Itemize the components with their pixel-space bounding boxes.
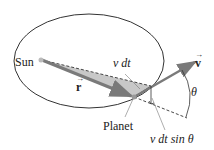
vdt-label: v dt: [113, 57, 131, 69]
theta-arc: [182, 70, 190, 117]
theta-label: θ: [191, 86, 197, 98]
v-vector-arrow: [134, 62, 195, 97]
planet-dot: [132, 95, 137, 100]
sun-label: Sun: [15, 56, 34, 68]
planet-label: Planet: [103, 120, 133, 132]
vdtsin-leader: [152, 98, 165, 130]
sun-dot: [39, 58, 44, 63]
v-vector-overarrow: →: [195, 51, 203, 59]
vdt-sin-theta-label: v dt sin θ: [150, 133, 194, 145]
dashed-extension: [134, 97, 187, 118]
r-vector-overarrow: →: [76, 75, 84, 83]
